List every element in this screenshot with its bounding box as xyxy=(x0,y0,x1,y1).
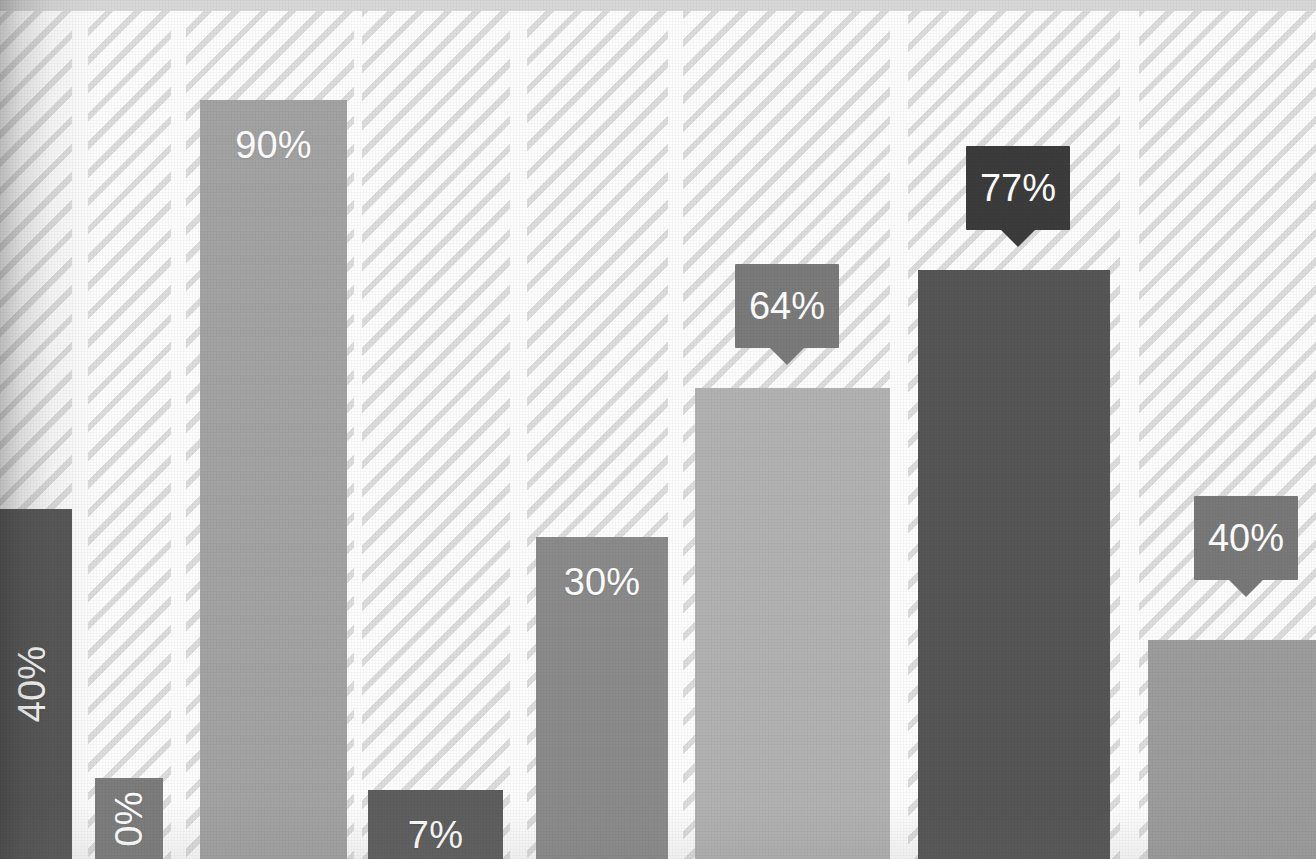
bar[interactable] xyxy=(1148,640,1316,859)
plot-area: 40%0%90%7%30%64%77%40% xyxy=(0,0,1316,859)
bar-value-callout[interactable]: 64% xyxy=(735,264,839,348)
bar-value-label: 30% xyxy=(564,537,641,601)
bar[interactable]: 90% xyxy=(200,100,347,859)
callout-value-label: 40% xyxy=(1208,519,1284,557)
bar-track xyxy=(362,11,510,859)
bar[interactable]: 30% xyxy=(536,537,668,859)
bar-value-callout[interactable]: 40% xyxy=(1194,496,1298,580)
bar-value-label: 0% xyxy=(110,791,148,846)
callout-pointer-icon xyxy=(1001,230,1035,247)
bar-track xyxy=(88,11,171,859)
bar[interactable] xyxy=(918,270,1110,859)
bar-value-label: 7% xyxy=(408,790,463,854)
bar-value-label: 40% xyxy=(13,646,51,723)
bar[interactable]: 7% xyxy=(368,790,503,859)
callout-value-label: 77% xyxy=(980,169,1056,207)
callout-pointer-icon xyxy=(1229,580,1263,597)
bar[interactable]: 40% xyxy=(0,509,72,859)
callout-value-label: 64% xyxy=(749,287,825,325)
bar[interactable]: 0% xyxy=(95,778,163,859)
bar[interactable] xyxy=(695,388,890,859)
callout-pointer-icon xyxy=(770,348,804,365)
bar-value-callout[interactable]: 77% xyxy=(966,146,1070,230)
bar-value-label: 90% xyxy=(235,100,312,164)
bar-chart-figure: 40%0%90%7%30%64%77%40% xyxy=(0,0,1316,859)
